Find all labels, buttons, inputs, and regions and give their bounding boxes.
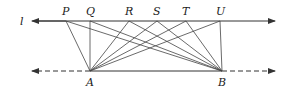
point-label-p: P xyxy=(61,5,70,18)
point-label-q: Q xyxy=(86,5,95,18)
segment-pb xyxy=(66,21,222,71)
point-label-b: B xyxy=(217,76,226,89)
segment-sb xyxy=(157,21,222,71)
point-label-t: T xyxy=(182,5,191,18)
point-label-u: U xyxy=(216,5,226,18)
geometry-diagram: PQRSTUAB l xyxy=(0,0,305,95)
point-label-s: S xyxy=(153,5,161,18)
point-labels: PQRSTUAB xyxy=(61,5,226,89)
segment-pa xyxy=(66,21,90,71)
point-label-r: R xyxy=(124,5,133,18)
line-label-l: l xyxy=(20,15,24,28)
segment-tb xyxy=(186,21,222,71)
point-label-a: A xyxy=(85,76,94,89)
segment-ub xyxy=(220,21,222,71)
connecting-segments xyxy=(66,21,222,71)
segment-ta xyxy=(90,21,186,71)
